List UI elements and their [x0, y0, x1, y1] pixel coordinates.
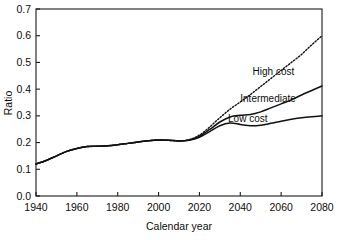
series-annotations-group: High costIntermediateLow cost — [228, 66, 296, 123]
chart-container: 19401960198020002020204020602080 0.00.10… — [0, 0, 340, 240]
y-axis-tick-labels: 0.00.10.20.30.40.50.60.7 — [16, 3, 31, 202]
x-tick-label: 2020 — [188, 201, 212, 213]
y-tick-label: 0.5 — [16, 56, 31, 68]
y-axis-ticks — [36, 9, 40, 196]
x-axis-tick-labels: 19401960198020002020204020602080 — [24, 201, 334, 213]
ratio-line-chart: 19401960198020002020204020602080 0.00.10… — [0, 0, 340, 240]
x-tick-label: 2000 — [147, 201, 171, 213]
y-tick-label: 0.4 — [16, 83, 31, 95]
x-axis-ticks — [36, 192, 322, 196]
series-label-intermediate: Intermediate — [240, 93, 296, 104]
x-axis-title: Calendar year — [146, 220, 212, 232]
y-tick-label: 0.1 — [16, 163, 31, 175]
y-tick-label: 0.2 — [16, 136, 31, 148]
y-tick-label: 0.7 — [16, 3, 31, 15]
x-tick-label: 1980 — [106, 201, 130, 213]
y-axis-title: Ratio — [2, 91, 14, 116]
x-tick-label: 2040 — [229, 201, 253, 213]
x-tick-label: 2080 — [310, 201, 334, 213]
x-tick-label: 2060 — [269, 201, 293, 213]
series-label-high-cost: High cost — [253, 66, 295, 77]
x-tick-label: 1940 — [24, 201, 48, 213]
y-tick-label: 0.3 — [16, 109, 31, 121]
series-line-low-cost — [36, 116, 322, 164]
y-tick-label: 0.6 — [16, 29, 31, 41]
series-label-low-cost: Low cost — [228, 113, 268, 124]
x-tick-label: 1960 — [65, 201, 89, 213]
y-tick-label: 0.0 — [16, 190, 31, 202]
